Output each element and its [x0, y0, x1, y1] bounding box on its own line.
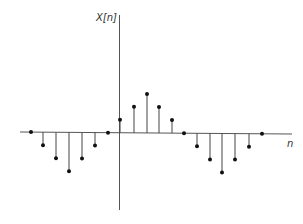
stem-marker	[132, 105, 136, 109]
y-axis-label: X[n]	[96, 12, 117, 23]
stem-marker	[260, 132, 264, 136]
stem-marker	[54, 156, 58, 160]
stem-marker	[67, 169, 71, 173]
stem-marker	[233, 158, 237, 162]
stem-marker	[157, 105, 161, 109]
stem-marker	[220, 170, 224, 174]
stem-marker	[208, 157, 212, 161]
stem-marker	[118, 118, 122, 122]
x-axis	[20, 132, 292, 134]
stem-marker	[145, 92, 149, 96]
stem-marker	[41, 143, 45, 147]
stem-marker	[106, 131, 110, 135]
stem-marker	[29, 130, 33, 134]
stem-marker	[182, 131, 186, 135]
stem-marker	[80, 156, 84, 160]
stem-marker	[170, 118, 174, 122]
stem-marker	[247, 145, 251, 149]
x-axis-label: n	[287, 138, 293, 149]
stem-plot-canvas	[0, 0, 303, 224]
stem-marker	[195, 144, 199, 148]
stem-marker	[93, 144, 97, 148]
